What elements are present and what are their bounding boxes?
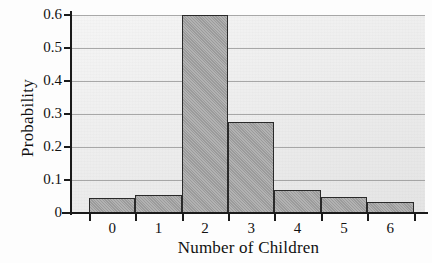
y-tick-mark	[64, 113, 72, 115]
x-tick-mark	[274, 214, 276, 221]
probability-bar-chart: Probability 0.60.50.40.30.20.10 0123456 …	[0, 0, 432, 263]
bar	[274, 190, 320, 213]
x-tick-mark	[321, 214, 323, 221]
x-axis-title: Number of Children	[72, 238, 425, 258]
y-tick-label: 0.6	[22, 7, 62, 22]
y-tick-label: 0	[22, 205, 62, 220]
y-tick-label: 0.4	[22, 73, 62, 88]
x-axis-line	[62, 212, 428, 214]
y-tick-label: 0.5	[22, 40, 62, 55]
x-tick-mark	[135, 214, 137, 221]
x-tick-label: 6	[375, 221, 405, 236]
gridline	[72, 48, 425, 49]
y-tick-mark	[64, 179, 72, 181]
x-tick-label: 2	[190, 221, 220, 236]
gridline	[72, 114, 425, 115]
x-tick-label: 0	[97, 221, 127, 236]
x-tick-mark	[228, 214, 230, 221]
bar	[182, 15, 228, 213]
x-tick-label: 1	[144, 221, 174, 236]
y-tick-mark	[64, 47, 72, 49]
gridline	[72, 81, 425, 82]
y-tick-mark	[64, 80, 72, 82]
gridline	[72, 15, 425, 16]
y-tick-label: 0.1	[22, 172, 62, 187]
y-tick-mark	[64, 146, 72, 148]
x-tick-mark	[89, 214, 91, 221]
x-tick-mark	[414, 214, 416, 221]
x-tick-label: 3	[236, 221, 266, 236]
x-tick-mark	[182, 214, 184, 221]
bar	[321, 197, 367, 213]
y-tick-label: 0.3	[22, 106, 62, 121]
x-tick-label: 5	[329, 221, 359, 236]
plot-area	[72, 15, 425, 213]
x-tick-mark	[367, 214, 369, 221]
bar	[135, 195, 181, 213]
y-tick-label: 0.2	[22, 139, 62, 154]
y-tick-mark	[64, 14, 72, 16]
y-tick-mark	[64, 212, 72, 214]
bar	[89, 198, 135, 213]
bar	[228, 122, 274, 213]
x-tick-label: 4	[283, 221, 313, 236]
